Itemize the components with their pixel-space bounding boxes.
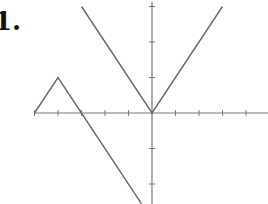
graph-piece-left bbox=[35, 78, 142, 204]
coordinate-plot bbox=[0, 0, 268, 204]
